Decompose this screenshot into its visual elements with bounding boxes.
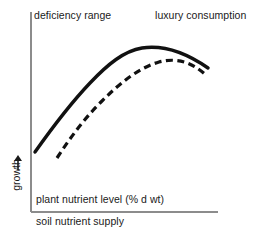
y-axis-label-text: growth [10,159,22,191]
figure-container: growth deficiency range luxury consumpti… [0,0,266,239]
x-axis-label-primary: plant nutrient level (% d wt) [36,193,164,205]
y-axis-label: growth [6,147,22,203]
annotation-deficiency-range: deficiency range [34,9,111,21]
dashed-response-curve [57,60,207,158]
annotation-luxury-consumption: luxury consumption [155,9,246,21]
x-axis-label-secondary: soil nutrient supply [36,215,124,227]
